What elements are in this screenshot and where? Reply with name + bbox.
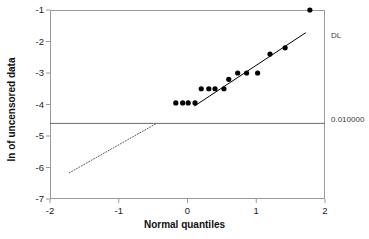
y-tick-label: -6 [14, 162, 44, 173]
x-tick-label: 2 [310, 205, 340, 216]
detection-limit-label: DL [331, 31, 341, 40]
x-tick-label: 1 [241, 205, 271, 216]
y-axis-title: ln of uncensored data [6, 15, 17, 205]
y-tick-label: -5 [14, 130, 44, 141]
x-tick-label: 0 [173, 205, 203, 216]
y-tick-label: -1 [14, 4, 44, 15]
x-axis-title: Normal quantiles [0, 219, 369, 230]
y-tick-label: -7 [14, 193, 44, 204]
threshold-value-label: 0.010000 [331, 115, 364, 124]
x-tick-label: -2 [35, 205, 65, 216]
y-tick-label: -3 [14, 67, 44, 78]
chart-root: -1-2-3-4-5-6-7 -2-1012 Normal quantiles … [0, 0, 369, 239]
x-tick-label: -1 [104, 205, 134, 216]
plot-area [50, 10, 325, 199]
y-tick-label: -4 [14, 99, 44, 110]
y-tick-label: -2 [14, 36, 44, 47]
